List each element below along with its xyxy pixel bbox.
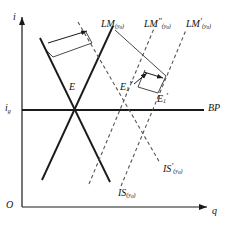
equilibrium-e1p-prime: ′	[166, 91, 168, 101]
diagram-canvas	[0, 0, 231, 226]
is-original-label: IS(y0)	[118, 186, 136, 200]
equilibrium-label-e: E	[69, 80, 75, 92]
lm-original-subscript: (y0)	[115, 23, 124, 29]
interest-rate-subscript: g	[8, 108, 11, 114]
lm-shift-baseline	[138, 87, 158, 93]
lm-original-curve	[42, 26, 113, 180]
horizontal-axis-label: q	[212, 206, 217, 216]
lm-prime-subscript: (y0)	[202, 23, 211, 29]
lm-shift-tick-b	[158, 76, 166, 93]
equilibrium-e1dp-prime: ″	[129, 79, 133, 89]
lm-shift-tick-a	[138, 70, 145, 87]
is-shifted-label: IS′(y0)	[163, 162, 182, 176]
vertical-axis-label: i	[13, 12, 16, 22]
origin-label: O	[6, 200, 13, 210]
lm-original-label: LM(y0)	[101, 17, 124, 31]
is-original-subscript: (y0)	[126, 192, 135, 198]
is-shift-arrow-group	[44, 31, 92, 57]
lm-double-prime-subscript: (y0)	[162, 23, 171, 29]
interest-rate-level-label: ig	[5, 103, 11, 114]
bp-line-label: BP	[208, 103, 220, 113]
lm-prime-label: LM′(y0)	[186, 17, 211, 31]
is-shift-arrow	[48, 31, 87, 43]
is-lm-bp-figure: i q O ig BP LM(y0) LM″(y0) LM′(y0) IS(y0…	[0, 0, 231, 226]
equilibrium-label-e1-prime: E1′	[157, 92, 168, 104]
lm-double-prime-label: LM″(y0)	[144, 17, 171, 31]
lm-shift-arrow-lower	[134, 73, 147, 84]
equilibrium-label-e1-double-prime: E1″	[120, 80, 133, 92]
is-shift-baseline	[53, 43, 92, 57]
lm-double-prime-base: LM	[144, 18, 158, 29]
lm-shift-connector-top	[115, 30, 166, 76]
lm-original-base: LM	[101, 18, 115, 29]
lm-prime-base: LM	[186, 18, 200, 29]
lm-double-prime-curve	[89, 26, 155, 184]
is-shifted-subscript: (y0)	[173, 168, 182, 174]
equilibrium-e-base: E	[69, 81, 75, 92]
